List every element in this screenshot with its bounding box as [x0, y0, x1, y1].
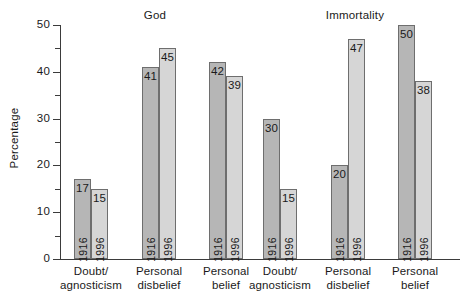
y-minor-tick-45	[55, 48, 61, 49]
bar-value-label: 45	[161, 51, 174, 63]
panel-title-immortality: Immortality	[300, 9, 410, 21]
y-tick-50	[53, 25, 61, 26]
y-minor-tick-35	[55, 95, 61, 96]
bar-value-label: 38	[417, 84, 430, 96]
bar-1996-15[interactable]: 151996	[91, 189, 108, 259]
bar-value-label: 15	[93, 192, 106, 204]
category-label: Personalbelief	[372, 265, 458, 292]
bar-1996-39[interactable]: 391996	[226, 76, 243, 259]
y-axis-label: Percentage	[8, 103, 20, 173]
category-label-line1: Personal	[136, 265, 182, 277]
category-label-line1: Doubt/	[74, 265, 108, 277]
y-tick-0	[53, 259, 61, 260]
bar-1916-20[interactable]: 201916	[331, 165, 348, 259]
y-tick-20	[53, 165, 61, 166]
panel-title-god: God	[110, 9, 200, 21]
bar-value-label: 17	[76, 182, 89, 194]
bar-1996-47[interactable]: 471996	[348, 39, 365, 259]
y-tick-label-20: 20	[22, 158, 50, 170]
bar-year-label: 1996	[94, 237, 105, 262]
bar-1916-17[interactable]: 171916	[74, 179, 91, 259]
y-tick-10	[53, 212, 61, 213]
y-tick-label-50: 50	[22, 18, 50, 30]
category-label-line1: Personal	[392, 265, 438, 277]
bar-year-label: 1916	[212, 237, 223, 262]
y-tick-30	[53, 119, 61, 120]
bar-value-label: 39	[228, 79, 241, 91]
bar-year-label: 1916	[334, 237, 345, 262]
category-label-line1: Personal	[325, 265, 371, 277]
bar-year-label: 1996	[283, 237, 294, 262]
bar-1996-45[interactable]: 451996	[159, 48, 176, 259]
bar-year-label: 1916	[77, 237, 88, 262]
bar-value-label: 50	[400, 28, 413, 40]
y-tick-label-40: 40	[22, 65, 50, 77]
y-tick-label-10: 10	[22, 205, 50, 217]
bar-1996-15[interactable]: 151996	[280, 189, 297, 259]
bar-year-label: 1996	[162, 237, 173, 262]
y-tick-label-30: 30	[22, 112, 50, 124]
bar-1916-50[interactable]: 501916	[398, 25, 415, 259]
y-tick-label-0: 0	[22, 252, 50, 264]
bar-year-label: 1996	[229, 237, 240, 262]
bar-value-label: 20	[333, 168, 346, 180]
bar-value-label: 42	[211, 65, 224, 77]
bar-year-label: 1916	[266, 237, 277, 262]
y-minor-tick-5	[55, 236, 61, 237]
bar-chart-figure: 01020304050 Percentage God Immortality 1…	[0, 0, 461, 300]
bar-1996-38[interactable]: 381996	[415, 81, 432, 259]
bar-1916-42[interactable]: 421916	[209, 62, 226, 259]
bar-year-label: 1996	[351, 237, 362, 262]
bar-value-label: 41	[144, 70, 157, 82]
bar-year-label: 1916	[401, 237, 412, 262]
category-label-line2: belief	[372, 279, 458, 293]
y-tick-40	[53, 72, 61, 73]
bar-value-label: 15	[282, 192, 295, 204]
bar-year-label: 1996	[418, 237, 429, 262]
y-minor-tick-15	[55, 189, 61, 190]
y-minor-tick-25	[55, 142, 61, 143]
category-label-line1: Doubt/	[263, 265, 297, 277]
bar-value-label: 47	[350, 42, 363, 54]
bar-value-label: 30	[265, 122, 278, 134]
bar-1916-30[interactable]: 301916	[263, 119, 280, 259]
bar-year-label: 1916	[145, 237, 156, 262]
bar-1916-41[interactable]: 411916	[142, 67, 159, 259]
